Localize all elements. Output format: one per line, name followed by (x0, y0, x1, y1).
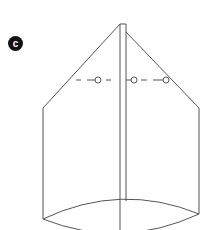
pivot-circle (131, 77, 137, 83)
folded-shape-diagram (0, 0, 204, 230)
base-lower-arc (43, 214, 199, 230)
left-outline (43, 24, 120, 219)
pivot-circle (163, 77, 169, 83)
right-outline (126, 32, 199, 214)
pivot-circle (95, 77, 101, 83)
dashed-fold-line (76, 77, 169, 83)
base-upper-arc (43, 199, 199, 219)
